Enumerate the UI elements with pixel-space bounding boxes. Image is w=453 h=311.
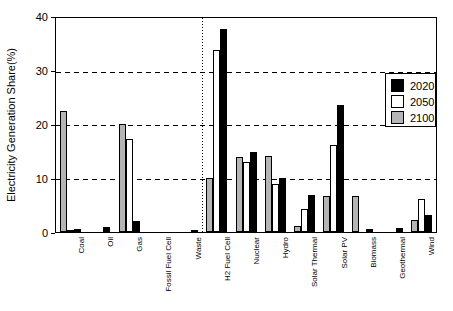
x-tick-label-fossil-fuel-cell: Fossil Fuel Cell bbox=[163, 237, 175, 309]
bar-waste-2020 bbox=[191, 230, 198, 232]
bar-wind-2050 bbox=[418, 199, 425, 232]
bar-wind-2100 bbox=[411, 220, 418, 232]
bar-coal-2020 bbox=[74, 229, 81, 232]
legend-row-2100: 2100 bbox=[391, 110, 435, 125]
x-tick-label-oil: Oil bbox=[105, 237, 117, 309]
bar-solar-pv-2020 bbox=[337, 105, 344, 232]
fossil-renewable-separator-line bbox=[202, 18, 203, 232]
bar-solar-pv-2100 bbox=[323, 196, 330, 232]
bar-h2-fuel-cell-2050 bbox=[213, 50, 220, 232]
bar-gas-2050 bbox=[126, 139, 133, 232]
x-tick-label-geothermal: Geothermal bbox=[397, 237, 409, 309]
gridline-30 bbox=[56, 72, 436, 73]
bar-coal-2050 bbox=[67, 230, 74, 232]
bar-chart-figure: Electricity Generation Share(%) 01020304… bbox=[0, 0, 453, 311]
bar-gas-2100 bbox=[119, 124, 126, 232]
bar-solar-thermal-2050 bbox=[301, 209, 308, 232]
legend-label-2100: 2100 bbox=[410, 112, 434, 124]
x-tick-label-nuclear: Nuclear bbox=[251, 237, 263, 309]
legend-label-2020: 2020 bbox=[410, 80, 434, 92]
bar-nuclear-2020 bbox=[250, 152, 257, 232]
y-axis-title: Electricity Generation Share(%) bbox=[5, 48, 17, 202]
bar-oil-2020 bbox=[103, 227, 110, 232]
plot-area bbox=[55, 17, 437, 233]
x-tick-label-solar-pv: Solar PV bbox=[339, 237, 351, 309]
legend-swatch-2050 bbox=[391, 95, 404, 108]
y-tick-label-40: 40 bbox=[24, 11, 48, 23]
x-tick-label-biomass: Biomass bbox=[368, 237, 380, 309]
y-tick-label-0: 0 bbox=[24, 227, 48, 239]
legend-swatch-2100 bbox=[391, 111, 404, 124]
gridline-20 bbox=[56, 125, 436, 126]
bar-h2-fuel-cell-2020 bbox=[220, 29, 227, 232]
legend-row-2050: 2050 bbox=[391, 94, 435, 109]
x-tick-label-hydro: Hydro bbox=[280, 237, 292, 309]
bar-hydro-2020 bbox=[279, 178, 286, 232]
y-tick-label-20: 20 bbox=[24, 119, 48, 131]
bar-solar-pv-2050 bbox=[330, 145, 337, 232]
x-tick-label-waste: Waste bbox=[193, 237, 205, 309]
x-tick-label-solar-thermal: Solar Thermal bbox=[309, 237, 321, 309]
y-tick-mark-0 bbox=[51, 233, 55, 234]
legend: 202020502100 bbox=[385, 73, 436, 127]
bar-geothermal-2020 bbox=[396, 228, 403, 232]
y-tick-label-10: 10 bbox=[24, 173, 48, 185]
bar-wind-2020 bbox=[425, 215, 432, 232]
bar-biomass-2020 bbox=[366, 229, 373, 232]
y-tick-label-30: 30 bbox=[24, 65, 48, 77]
bar-hydro-2100 bbox=[265, 156, 272, 232]
bar-biomass-2100 bbox=[352, 196, 359, 232]
bar-gas-2020 bbox=[133, 221, 140, 232]
legend-swatch-2020 bbox=[391, 79, 404, 92]
x-tick-label-h2-fuel-cell: H2 Fuel Cell bbox=[222, 237, 234, 309]
bar-h2-fuel-cell-2100 bbox=[206, 178, 213, 232]
x-tick-label-gas: Gas bbox=[134, 237, 146, 309]
bar-nuclear-2050 bbox=[243, 162, 250, 232]
bar-coal-2100 bbox=[60, 111, 67, 232]
legend-label-2050: 2050 bbox=[410, 96, 434, 108]
x-tick-label-wind: Wind bbox=[426, 237, 438, 309]
bar-nuclear-2100 bbox=[236, 157, 243, 232]
bar-solar-thermal-2100 bbox=[294, 226, 301, 232]
bar-hydro-2050 bbox=[272, 184, 279, 232]
x-tick-label-coal: Coal bbox=[76, 237, 88, 309]
legend-row-2020: 2020 bbox=[391, 78, 435, 93]
bar-solar-thermal-2020 bbox=[308, 195, 315, 232]
